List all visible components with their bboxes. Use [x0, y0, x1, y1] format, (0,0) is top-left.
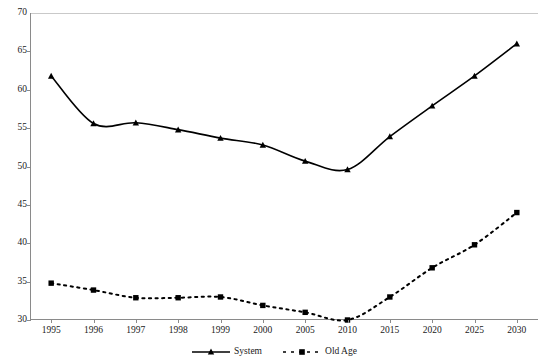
x-axis-tick-mark — [51, 320, 52, 323]
legend-line-system-icon — [191, 347, 231, 357]
y-axis-tick-mark — [27, 90, 31, 91]
x-axis-tick-mark — [432, 320, 433, 323]
x-axis-tick-mark — [136, 320, 137, 323]
x-axis-tick-mark — [390, 320, 391, 323]
data-point-marker[interactable]: 2030: 44 — [514, 210, 519, 215]
legend-label-system: System — [234, 347, 262, 357]
x-axis-tick-mark — [221, 320, 222, 323]
data-point-marker[interactable]: 1997: 32.9 — [133, 295, 138, 300]
series-line — [51, 213, 517, 321]
data-point-marker[interactable]: 2000: 31.9 — [260, 303, 265, 308]
chart-legend: System Old Age — [0, 344, 548, 360]
y-axis-tick-mark — [27, 205, 31, 206]
y-axis-tick-mark — [27, 51, 31, 52]
x-axis-tick-mark — [517, 320, 518, 323]
legend-item-old-age[interactable]: Old Age — [282, 347, 357, 357]
series-old-age: 1995: 34.81996: 33.91997: 32.91998: 32.9… — [48, 210, 519, 323]
y-axis-tick-mark — [27, 243, 31, 244]
x-axis-tick-mark — [305, 320, 306, 323]
y-axis-tick-mark — [27, 128, 31, 129]
series-system: 1995: 61.81996: 55.61997: 55.71998: 54.8… — [48, 41, 520, 173]
y-axis-tick-mark — [27, 320, 31, 321]
legend-label-old-age: Old Age — [325, 347, 357, 357]
x-axis-tick-mark — [348, 320, 349, 323]
y-axis-tick-mark — [27, 167, 31, 168]
x-axis-tick-mark — [263, 320, 264, 323]
data-point-marker[interactable]: 1999: 33 — [218, 294, 223, 299]
data-point-marker[interactable]: 2015: 33 — [387, 294, 392, 299]
legend-line-old-age-icon — [282, 347, 322, 357]
chart-container: 706560555045403530 199519961997199819992… — [0, 0, 548, 362]
x-axis-tick-mark — [178, 320, 179, 323]
data-point-marker[interactable]: 1996: 33.9 — [91, 287, 96, 292]
data-point-marker[interactable]: 1995: 61.8 — [48, 73, 54, 79]
x-axis-tick-mark — [94, 320, 95, 323]
data-point-marker[interactable]: 2005: 31 — [302, 310, 307, 315]
x-axis-tick-mark — [475, 320, 476, 323]
legend-item-system[interactable]: System — [191, 347, 262, 357]
data-point-marker[interactable]: 1998: 32.9 — [175, 295, 180, 300]
y-axis-tick-mark — [27, 282, 31, 283]
data-point-marker[interactable]: 2020: 36.8 — [429, 265, 434, 270]
data-point-marker[interactable]: 1995: 34.8 — [48, 280, 53, 285]
data-point-marker[interactable]: 2025: 39.8 — [472, 242, 477, 247]
chart-plot-svg: 1995: 61.81996: 55.61997: 55.71998: 54.8… — [0, 0, 548, 362]
series-line — [51, 44, 517, 171]
data-point-marker[interactable]: 2030: 66 — [514, 41, 520, 47]
